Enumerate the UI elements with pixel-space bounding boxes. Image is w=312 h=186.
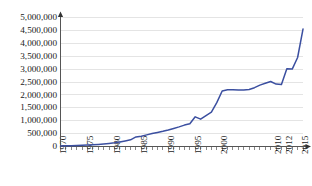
y-tick-label: 3,000,000 — [20, 64, 57, 74]
x-tick-label: 2010 — [273, 135, 283, 154]
x-tick-label: 1980 — [112, 135, 122, 154]
y-tick-label: 4,500,000 — [20, 25, 57, 35]
axes — [58, 12, 311, 150]
x-tick-label: 2000 — [219, 135, 229, 154]
chart-page: 0500,0001,000,0001,500,0002,000,0002,500… — [0, 0, 312, 186]
data-series-line — [61, 29, 304, 146]
gridlines — [61, 18, 304, 134]
y-tick-label: 1,000,000 — [20, 115, 57, 125]
y-tick-label: 4,000,000 — [20, 38, 57, 48]
y-axis-arrow-icon — [58, 12, 63, 18]
x-tick-label: 1990 — [166, 135, 176, 154]
x-axis-tick-marks — [61, 147, 304, 152]
x-tick-label: 2012 — [284, 135, 294, 154]
y-tick-label: 500,000 — [27, 128, 57, 138]
x-tick-label: 1995 — [193, 135, 203, 154]
y-tick-label: 2,000,000 — [20, 90, 57, 100]
y-tick-label: 2,500,000 — [20, 77, 57, 87]
y-tick-label: 1,500,000 — [20, 102, 57, 112]
y-axis-tick-labels: 0500,0001,000,0001,500,0002,000,0002,500… — [20, 12, 57, 151]
line-chart: 0500,0001,000,0001,500,0002,000,0002,500… — [0, 0, 312, 186]
y-tick-label: 3,500,000 — [20, 51, 57, 61]
x-tick-label: 1985 — [139, 135, 149, 154]
x-tick-label: 1970 — [58, 135, 68, 154]
y-tick-label: 0 — [52, 141, 57, 151]
x-tick-label: 2015 — [300, 135, 310, 154]
y-tick-label: 5,000,000 — [20, 12, 57, 22]
